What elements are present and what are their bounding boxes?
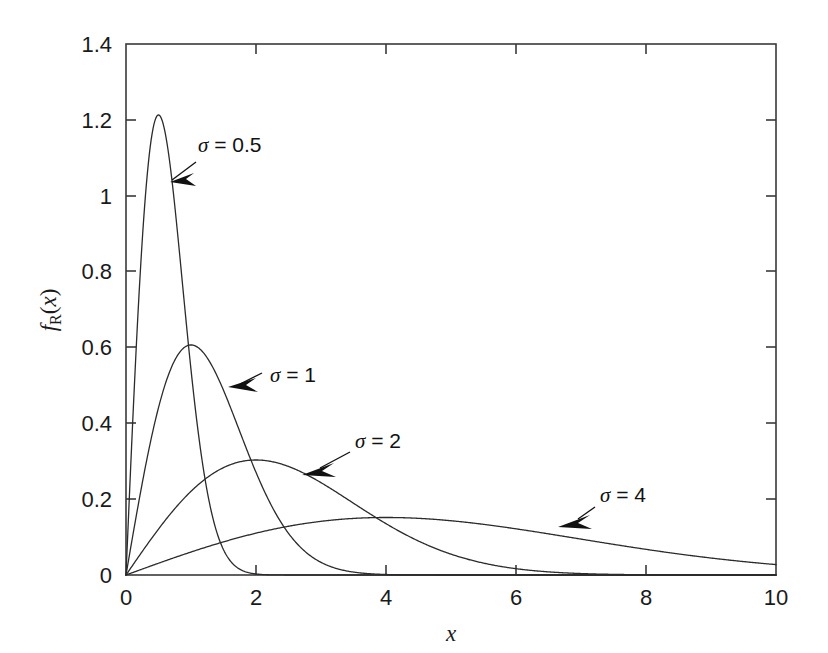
y-tick-label-0p6: 0.6: [81, 335, 112, 360]
x-tick-label-0: 0: [120, 585, 132, 610]
plot-frame: [126, 44, 776, 575]
annotation-label-sigma-0p5: σ = 0.5: [198, 133, 262, 157]
x-tick-label-2: 2: [250, 585, 262, 610]
y-tick-label-1p4: 1.4: [81, 32, 112, 57]
y-tick-label-1p2: 1.2: [81, 108, 112, 133]
annotation-sigma-1: σ = 1: [228, 363, 316, 392]
sigma-equals-1: =: [280, 363, 304, 386]
sigma-value-4: 4: [634, 483, 646, 506]
rayleigh-pdf-chart: 0 2 4 6 8 10 0 0.2 0.4 0.6 0.8 1 1.2 1.4…: [0, 0, 828, 653]
x-tick-label-8: 8: [640, 585, 652, 610]
sigma-equals-2: =: [365, 429, 389, 452]
y-axis-title: fR(x): [36, 289, 64, 332]
y-tick-label-1: 1: [100, 184, 112, 209]
x-tick-marks: [256, 44, 646, 575]
curve-sigma-1: [126, 345, 776, 575]
x-tick-label-10: 10: [764, 585, 788, 610]
curve-sigma-0p5: [126, 115, 776, 575]
sigma-equals-4: =: [610, 483, 634, 506]
curve-sigma-4: [126, 517, 776, 575]
axes-box: [126, 44, 776, 575]
sigma-value-0p5: 0.5: [232, 133, 261, 156]
y-axis-title-subscript: R: [47, 314, 64, 325]
svg-text:fR(x): fR(x): [36, 289, 64, 332]
annotation-label-sigma-2: σ = 2: [355, 429, 401, 453]
y-tick-label-0: 0: [100, 563, 112, 588]
y-tick-marks: [126, 120, 776, 499]
y-axis-title-paren-close: ): [36, 289, 61, 297]
y-axis-title-paren-open: (: [36, 307, 61, 315]
x-tick-label-4: 4: [380, 585, 392, 610]
y-tick-label-0p8: 0.8: [81, 259, 112, 284]
y-tick-label-0p4: 0.4: [81, 411, 112, 436]
x-tick-labels: 0 2 4 6 8 10: [120, 585, 788, 610]
arrowhead-sigma-2: [302, 463, 336, 477]
arrowhead-sigma-4: [558, 515, 592, 529]
sigma-equals-0p5: =: [208, 133, 232, 156]
annotation-sigma-0p5: σ = 0.5: [170, 133, 262, 186]
figure-page: 0 2 4 6 8 10 0 0.2 0.4 0.6 0.8 1 1.2 1.4…: [0, 0, 828, 653]
sigma-value-2: 2: [389, 429, 401, 452]
arrowhead-sigma-0p5: [170, 173, 196, 186]
sigma-value-1: 1: [304, 363, 316, 386]
y-tick-labels: 0 0.2 0.4 0.6 0.8 1 1.2 1.4: [81, 32, 112, 588]
x-tick-label-6: 6: [510, 585, 522, 610]
curves-group: [126, 115, 776, 575]
annotation-label-sigma-1: σ = 1: [270, 363, 316, 387]
annotation-sigma-2: σ = 2: [302, 429, 401, 477]
x-axis-title: x: [445, 621, 457, 646]
annotation-label-sigma-4: σ = 4: [600, 483, 646, 507]
arrowhead-sigma-1: [228, 378, 258, 392]
y-axis-title-arg: x: [36, 296, 61, 308]
leader-line-sigma-2: [320, 452, 350, 468]
annotation-sigma-4: σ = 4: [558, 483, 646, 529]
y-tick-label-0p2: 0.2: [81, 487, 112, 512]
curve-sigma-2: [126, 460, 776, 575]
